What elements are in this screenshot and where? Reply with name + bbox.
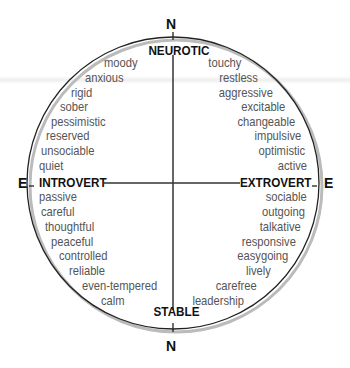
trait-responsive: responsive [242, 235, 296, 249]
trait-leadership: leadership [192, 294, 244, 308]
compass-right: E [324, 175, 333, 191]
trait-aggressive: aggressive [219, 86, 273, 100]
trait-easygoing: easygoing [237, 249, 288, 263]
trait-anxious: anxious [85, 71, 124, 85]
trait-controlled: controlled [59, 249, 107, 263]
trait-sociable: sociable [266, 190, 307, 204]
compass-left: E [18, 175, 27, 191]
trait-talkative: talkative [260, 220, 301, 234]
trait-reserved: reserved [46, 129, 89, 143]
trait-excitable: excitable [241, 100, 285, 114]
trait-impulsive: impulsive [254, 129, 301, 143]
trait-lively: lively [246, 264, 271, 278]
trait-reliable: reliable [69, 264, 105, 278]
trait-outgoing: outgoing [262, 205, 305, 219]
trait-thoughtful: thoughtful [45, 220, 94, 234]
trait-passive: passive [39, 190, 77, 204]
trait-careful: careful [41, 205, 75, 219]
trait-unsociable: unsociable [41, 144, 94, 158]
trait-rigid: rigid [71, 86, 92, 100]
trait-optimistic: optimistic [258, 144, 305, 158]
trait-calm: calm [101, 294, 125, 308]
trait-carefree: carefree [216, 279, 257, 293]
trait-changeable: changeable [237, 115, 295, 129]
axis-extrovert: EXTROVERT [240, 175, 312, 190]
compass-top: N [166, 16, 176, 32]
trait-quiet: quiet [39, 159, 63, 173]
trait-touchy: touchy [208, 56, 241, 70]
trait-active: active [278, 159, 307, 173]
trait-pessimistic: pessimistic [51, 115, 106, 129]
trait-peaceful: peaceful [51, 235, 93, 249]
trait-sober: sober [60, 100, 88, 114]
trait-moody: moody [104, 56, 138, 70]
axis-introvert: INTROVERT [39, 175, 107, 190]
axis-neurotic: NEUROTIC [148, 43, 209, 58]
compass-bottom: N [166, 338, 176, 354]
trait-even-tempered: even-tempered [82, 279, 157, 293]
trait-restless: restless [219, 71, 258, 85]
